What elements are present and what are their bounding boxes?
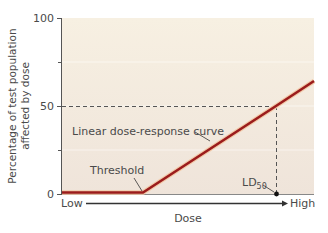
y-tick-100: 100 [33, 12, 54, 25]
y-axis [57, 18, 62, 195]
threshold-label: Threshold [89, 164, 144, 177]
svg-text:Percentage of test population: Percentage of test population [6, 28, 18, 183]
dose-response-chart: 100 50 0 Percentage of test population a… [0, 0, 328, 233]
x-tick-high: High [290, 197, 315, 210]
y-tick-50: 50 [40, 100, 54, 113]
svg-text:affected by dose: affected by dose [19, 62, 31, 150]
x-axis-label: Dose [174, 212, 202, 225]
x-tick-low: Low [61, 197, 83, 210]
y-axis-label: Percentage of test population affected b… [6, 28, 31, 183]
dose-arrow-head [282, 201, 288, 207]
ld50-point [274, 192, 279, 197]
y-tick-0: 0 [47, 188, 54, 201]
